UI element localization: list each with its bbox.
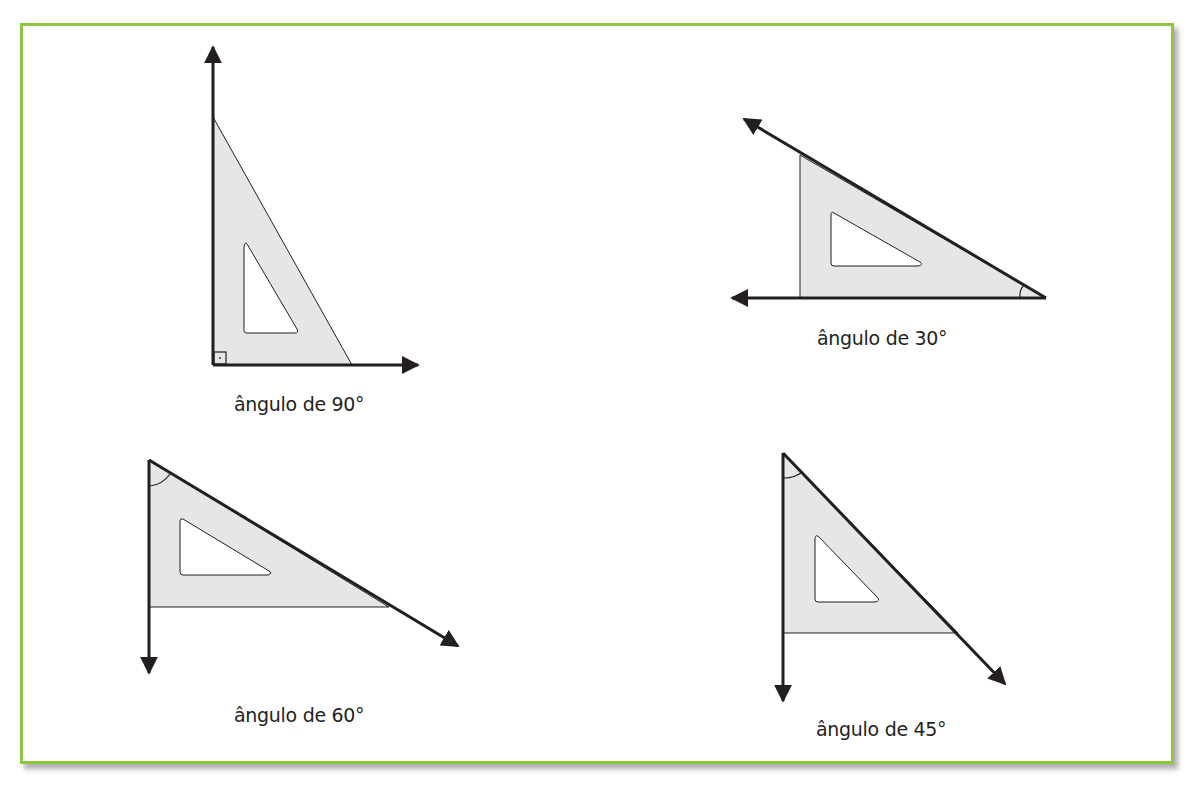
angle-45-figure <box>783 453 1005 701</box>
set-square-angles-diagram <box>0 0 1197 793</box>
set-square-90 <box>213 117 352 365</box>
angle-90-figure <box>213 47 418 365</box>
label-angle-45: ângulo de 45° <box>816 718 946 740</box>
label-angle-30: ângulo de 30° <box>817 327 947 349</box>
label-angle-90: ângulo de 90° <box>234 393 364 415</box>
ray-diagonal-down-right <box>149 460 458 646</box>
angle-60-figure <box>149 460 458 673</box>
ray-diagonal-down-right <box>783 453 1005 684</box>
label-angle-60: ângulo de 60° <box>234 704 364 726</box>
angle-30-figure <box>732 119 1046 298</box>
